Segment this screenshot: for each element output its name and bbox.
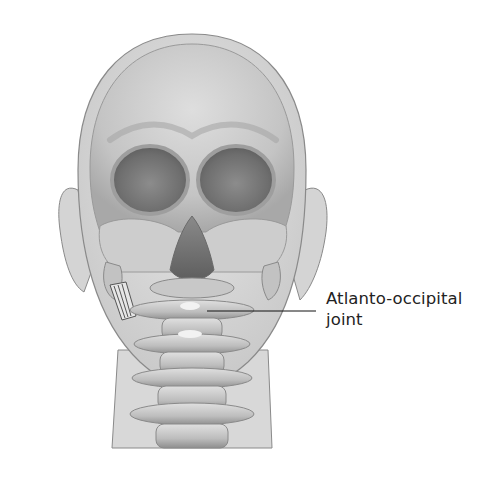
left-orbit bbox=[112, 146, 188, 214]
anatomy-illustration: Atlanto-occipital joint bbox=[0, 0, 496, 478]
callout-label-line-1: Atlanto-occipital bbox=[326, 288, 463, 309]
callout-label-line-2: joint bbox=[326, 309, 463, 330]
callout-label-atlanto-occipital-joint: Atlanto-occipital joint bbox=[326, 288, 463, 330]
skull-cervical-spine-drawing bbox=[0, 0, 496, 478]
right-orbit bbox=[198, 146, 274, 214]
